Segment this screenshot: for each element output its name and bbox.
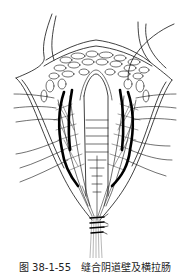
- anatomical-illustration: [0, 0, 190, 258]
- figure-caption: 图 38-1-55 缝合阴道壁及横拉肠: [0, 262, 190, 273]
